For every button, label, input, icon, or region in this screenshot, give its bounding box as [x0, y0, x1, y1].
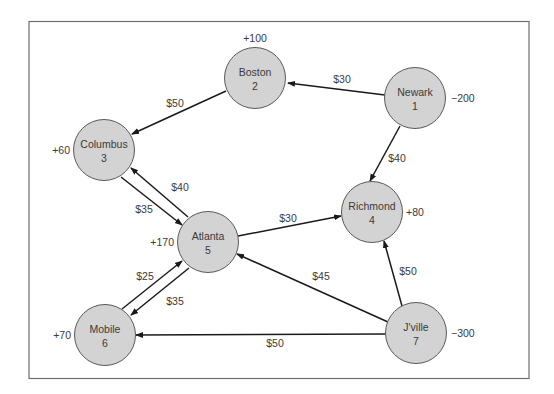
edge-cost-label: $50	[166, 97, 184, 109]
node-supply-demand-label: +80	[406, 206, 424, 218]
node-number: 2	[252, 80, 258, 92]
node-name: Columbus	[80, 138, 127, 150]
arrow-icon	[136, 334, 386, 335]
edge-cost-label: $50	[266, 337, 284, 349]
node-name: Richmond	[348, 200, 395, 212]
edge-cost-label: $35	[166, 295, 184, 307]
node-number: 4	[369, 214, 375, 226]
node-circle	[342, 182, 403, 243]
node-name: Mobile	[90, 323, 121, 335]
edge-cost-label: $30	[333, 73, 351, 85]
edge-cost-label: $35	[135, 203, 153, 215]
node-circle	[74, 120, 135, 181]
edge-cost-label: $25	[136, 270, 154, 282]
edge-cost-label: $45	[312, 270, 330, 282]
network-diagram: $30$40$50$35$40$30$25$35$45$50$50 Newark…	[0, 0, 554, 394]
node-circle	[75, 305, 136, 366]
node-supply-demand-label: +170	[150, 236, 174, 248]
node-name: Boston	[239, 66, 272, 78]
node-name: J'ville	[403, 321, 429, 333]
node-supply-demand-label: +70	[53, 329, 71, 341]
node-supply-demand-label: −200	[451, 92, 475, 104]
node-name: Atlanta	[192, 230, 225, 242]
node-name: Newark	[397, 86, 433, 98]
node-number: 7	[413, 335, 419, 347]
node-supply-demand-label: +60	[52, 144, 70, 156]
edge-cost-label: $40	[388, 152, 406, 164]
edge-cost-label: $40	[171, 181, 189, 193]
node-circle	[385, 68, 446, 129]
node-supply-demand-label: −300	[451, 327, 475, 339]
node-supply-demand-label: +100	[243, 32, 267, 44]
node-number: 5	[205, 244, 211, 256]
node-circle	[178, 212, 239, 273]
node-number: 6	[102, 337, 108, 349]
edge-cost-label: $30	[279, 212, 297, 224]
edge-cost-label: $50	[399, 265, 417, 277]
node-number: 1	[412, 100, 418, 112]
node-number: 3	[101, 152, 107, 164]
node-circle	[386, 303, 447, 364]
node-circle	[225, 48, 286, 109]
